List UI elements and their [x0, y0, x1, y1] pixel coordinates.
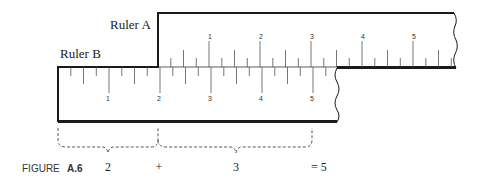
ruler-b-tick-label: 2	[157, 95, 161, 102]
ruler-b: 1 2 3 4 5 Ruler B	[57, 46, 339, 122]
ruler-b-ticks	[71, 67, 326, 93]
equation: 2 + 3 = 5	[105, 160, 327, 174]
brace-span-3	[158, 128, 312, 153]
ruler-b-tick-label: 5	[310, 95, 314, 102]
ruler-a: 1 2 3 4 5 Ruler A	[110, 13, 457, 68]
ruler-b-tick-label: 1	[106, 95, 110, 102]
ruler-b-tick-labels: 1 2 3 4 5	[106, 95, 314, 102]
ruler-a-outline	[158, 13, 454, 67]
brace-span-2	[58, 128, 158, 153]
figure-caption-number: A.6	[67, 163, 83, 174]
ruler-a-tick-labels: 1 2 3 4 5	[208, 33, 416, 40]
equation-plus: +	[156, 160, 163, 174]
ruler-b-tick-label: 3	[208, 95, 212, 102]
ruler-a-break-edge	[454, 13, 458, 68]
ruler-b-tick-label: 4	[259, 95, 263, 102]
equation-result: = 5	[311, 160, 327, 174]
measurement-braces	[58, 128, 312, 153]
ruler-a-tick-label: 5	[412, 33, 416, 40]
figure-caption: FIGURE A.6	[22, 163, 83, 174]
ruler-b-break-edge	[335, 68, 339, 122]
ruler-a-tick-label: 2	[259, 33, 263, 40]
ruler-b-label: Ruler B	[60, 46, 101, 61]
ruler-a-tick-label: 4	[361, 33, 365, 40]
ruler-a-tick-label: 1	[208, 33, 212, 40]
equation-term-1: 2	[105, 160, 111, 174]
ruler-a-tick-label: 3	[310, 33, 314, 40]
ruler-a-label: Ruler A	[110, 17, 151, 32]
ruler-a-ticks	[171, 41, 452, 67]
equation-term-2: 3	[233, 160, 239, 174]
figure-caption-prefix: FIGURE	[22, 163, 60, 174]
ruler-addition-diagram: 1 2 3 4 5 Ruler A 1 2 3 4 5 Ruler B	[0, 0, 477, 180]
